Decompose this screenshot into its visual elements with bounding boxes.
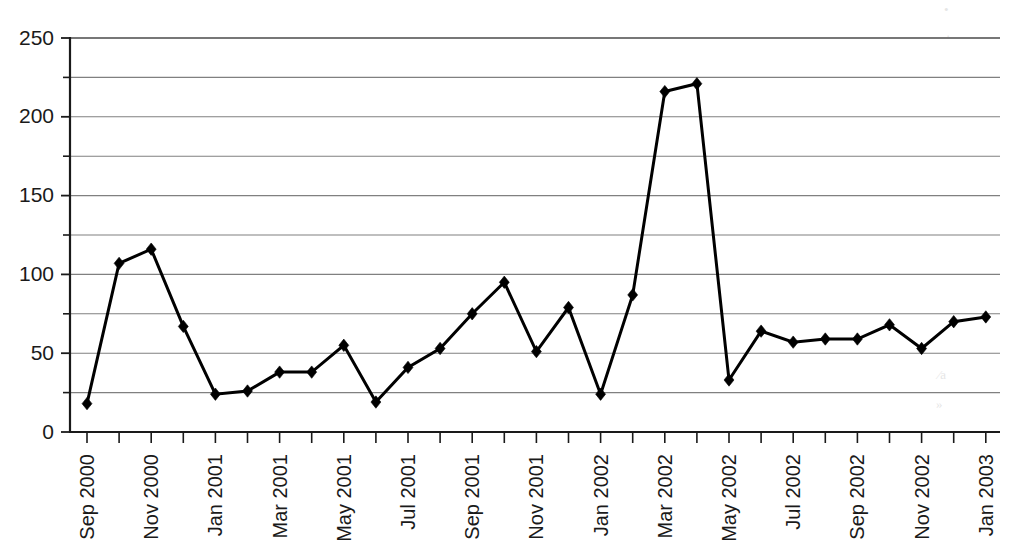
x-axis-label: May 2002	[718, 454, 740, 542]
x-axis-label: Nov 2001	[525, 454, 547, 540]
data-point-marker	[788, 336, 798, 348]
y-axis-label: 200	[19, 104, 54, 127]
y-axis-label: 250	[19, 26, 54, 49]
scan-artifacts: •·⁄a»	[935, 2, 950, 411]
x-axis-label: Nov 2000	[140, 454, 162, 540]
y-axis-label: 0	[42, 420, 54, 443]
x-axis-label: Jan 2001	[204, 454, 226, 536]
data-point-marker	[82, 397, 92, 409]
x-axis-ticks	[87, 432, 986, 443]
x-axis-label: Sep 2001	[461, 454, 483, 540]
x-axis-label: Mar 2002	[654, 454, 676, 539]
data-point-marker	[275, 366, 285, 378]
scan-artifact: •	[944, 2, 949, 17]
x-axis-label: Jan 2003	[975, 454, 997, 536]
data-markers	[82, 78, 991, 410]
x-axis-label: Jul 2001	[397, 454, 419, 530]
data-point-marker	[981, 311, 991, 323]
x-axis-label: Jan 2002	[590, 454, 612, 536]
x-axis-label: Mar 2001	[269, 454, 291, 539]
data-point-marker	[596, 388, 606, 400]
y-axis-label: 50	[31, 341, 54, 364]
scan-artifact: ⁄a	[935, 367, 946, 382]
y-axis-ticks	[61, 38, 70, 432]
data-point-marker	[820, 333, 830, 345]
x-axis-label: May 2001	[333, 454, 355, 542]
y-axis-label: 100	[19, 262, 54, 285]
data-point-marker	[114, 257, 124, 269]
data-point-marker	[243, 385, 253, 397]
x-axis-label: Nov 2002	[911, 454, 933, 540]
data-point-marker	[660, 85, 670, 97]
scan-artifact: ·	[946, 28, 950, 43]
x-axis-label: Sep 2002	[846, 454, 868, 540]
data-point-marker	[628, 289, 638, 301]
scan-artifact: »	[936, 396, 943, 411]
data-point-marker	[692, 78, 702, 90]
x-axis-label: Sep 2000	[76, 454, 98, 540]
line-chart: 050100150200250 Sep 2000Nov 2000Jan 2001…	[0, 0, 1018, 560]
y-axis-label: 150	[19, 183, 54, 206]
x-axis-label: Jul 2002	[782, 454, 804, 530]
chart-canvas: 050100150200250 Sep 2000Nov 2000Jan 2001…	[0, 0, 1018, 560]
x-axis-labels: Sep 2000Nov 2000Jan 2001Mar 2001May 2001…	[76, 454, 997, 542]
data-point-marker	[852, 333, 862, 345]
y-axis-labels: 050100150200250	[19, 26, 54, 443]
data-point-marker	[146, 243, 156, 255]
